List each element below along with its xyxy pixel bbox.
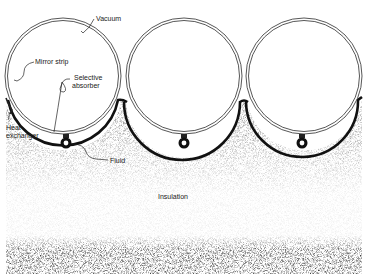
fluid-pipe-3: [297, 134, 308, 149]
label-heat-exchanger-2: exchanger: [6, 132, 39, 140]
insulation-region: [0, 95, 368, 275]
label-vacuum: Vacuum: [96, 15, 121, 23]
glass-tube-1: [5, 18, 121, 134]
fluid-pipe-2: [179, 134, 190, 149]
mirror-strip-leader: [14, 62, 34, 81]
label-insulation: Insulation: [158, 193, 188, 201]
label-selective-absorber-1: Selective: [74, 74, 102, 82]
label-selective-absorber-2: absorber: [72, 82, 100, 90]
fluid-pipe-1: [61, 134, 72, 149]
glass-tube-2: [126, 18, 242, 134]
glass-tubes: [5, 18, 362, 134]
glass-tube-3: [246, 18, 362, 134]
label-mirror-strip: Mirror strip: [35, 58, 68, 66]
label-fluid: Fluid: [110, 157, 125, 165]
collector-diagram: [0, 0, 368, 280]
label-heat-exchanger-1: Heat: [6, 124, 21, 132]
selective-absorber-leader: [54, 79, 70, 132]
